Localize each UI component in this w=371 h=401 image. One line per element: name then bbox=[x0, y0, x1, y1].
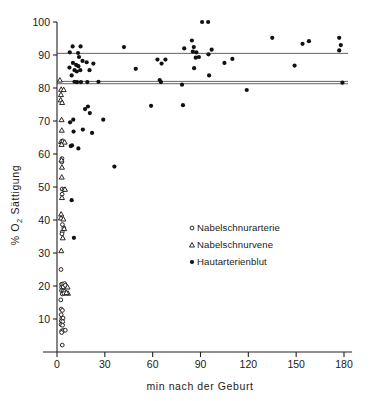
data-point bbox=[197, 55, 201, 59]
data-points-group bbox=[57, 20, 344, 347]
plot-canvas: 1020304050607080901000306090120150180 Na… bbox=[0, 0, 371, 401]
data-point bbox=[68, 50, 72, 54]
legend-marker-open-circle bbox=[190, 226, 194, 230]
data-point bbox=[337, 48, 341, 52]
data-point bbox=[134, 67, 138, 71]
data-point bbox=[194, 50, 198, 54]
x-tick-label-150: 150 bbox=[287, 358, 305, 370]
x-axis-title: min nach der Geburt bbox=[146, 380, 253, 392]
legend-marker-filled-circle bbox=[190, 260, 194, 264]
data-point bbox=[192, 45, 196, 49]
data-point bbox=[60, 343, 64, 347]
data-point bbox=[200, 20, 204, 24]
data-point bbox=[112, 164, 116, 168]
data-point bbox=[58, 92, 63, 97]
x-tick-label-0: 0 bbox=[54, 358, 60, 370]
data-point bbox=[60, 232, 64, 236]
data-point bbox=[71, 118, 75, 122]
data-point bbox=[101, 118, 105, 122]
y-tick-label-10: 10 bbox=[38, 313, 50, 325]
data-point bbox=[59, 298, 63, 302]
data-point bbox=[91, 61, 95, 65]
data-point bbox=[206, 52, 210, 56]
y-tick-label-50: 50 bbox=[38, 181, 50, 193]
data-point bbox=[210, 48, 214, 52]
data-point bbox=[182, 46, 186, 50]
data-point bbox=[59, 128, 64, 133]
legend-group: NabelschnurarterieNabelschnurveneHautart… bbox=[190, 222, 280, 267]
svg-text:% O2 Sättigung: % O2 Sättigung bbox=[9, 165, 24, 245]
reference-lines-group bbox=[57, 53, 348, 83]
data-point bbox=[337, 36, 341, 40]
y-tick-label-80: 80 bbox=[38, 82, 50, 94]
data-point bbox=[270, 36, 274, 40]
y-axis-title-rest: Sättigung bbox=[9, 165, 21, 215]
legend-marker-triangle bbox=[190, 243, 195, 248]
data-point bbox=[307, 39, 311, 43]
data-point bbox=[76, 64, 80, 68]
data-point bbox=[85, 60, 89, 64]
data-point bbox=[222, 61, 226, 65]
data-point bbox=[70, 73, 74, 77]
data-point bbox=[81, 127, 85, 131]
y-tick-label-40: 40 bbox=[38, 214, 50, 226]
data-point bbox=[340, 81, 344, 85]
data-point bbox=[59, 165, 64, 170]
data-point bbox=[77, 55, 81, 59]
data-point bbox=[191, 50, 195, 54]
data-point bbox=[86, 104, 90, 108]
data-point bbox=[72, 236, 76, 240]
data-point bbox=[60, 331, 64, 335]
legend-item-2: Hautarterienblut bbox=[190, 256, 267, 267]
x-tick-label-30: 30 bbox=[99, 358, 111, 370]
legend-label-0: Nabelschnurarterie bbox=[197, 222, 280, 233]
scatter-plot-figure: 1020304050607080901000306090120150180 Na… bbox=[0, 0, 371, 401]
legend-label-2: Hautarterienblut bbox=[197, 256, 267, 267]
data-point bbox=[230, 57, 234, 61]
data-point bbox=[163, 58, 167, 62]
y-axis-title-o: O bbox=[9, 223, 21, 232]
data-point bbox=[61, 309, 65, 313]
data-point bbox=[59, 248, 64, 253]
data-point bbox=[181, 103, 185, 107]
data-point bbox=[149, 104, 153, 108]
data-point bbox=[85, 80, 89, 84]
data-point bbox=[70, 143, 74, 147]
data-point bbox=[79, 80, 83, 84]
series-hautarterienblut bbox=[67, 20, 344, 240]
data-point bbox=[122, 45, 126, 49]
data-point bbox=[300, 42, 304, 46]
y-tick-label-100: 100 bbox=[32, 16, 50, 28]
data-point bbox=[80, 59, 84, 63]
data-point bbox=[71, 44, 75, 48]
data-point bbox=[245, 88, 249, 92]
data-point bbox=[76, 51, 80, 55]
data-point bbox=[75, 80, 79, 84]
y-tick-label-30: 30 bbox=[38, 247, 50, 259]
data-point bbox=[59, 175, 64, 180]
series-nabelschnurvene bbox=[57, 78, 70, 296]
data-point bbox=[155, 58, 159, 62]
y-tick-label-60: 60 bbox=[38, 148, 50, 160]
x-tick-label-60: 60 bbox=[147, 358, 159, 370]
data-point bbox=[88, 111, 92, 115]
x-tick-label-120: 120 bbox=[240, 358, 258, 370]
data-point bbox=[207, 73, 211, 77]
x-tick-label-180: 180 bbox=[335, 358, 353, 370]
data-point bbox=[339, 43, 343, 47]
x-tick-label-90: 90 bbox=[195, 358, 207, 370]
data-point bbox=[59, 268, 63, 272]
y-tick-label-90: 90 bbox=[38, 49, 50, 61]
data-point bbox=[292, 63, 296, 67]
y-axis-title-percent: % bbox=[9, 235, 21, 245]
y-tick-label-20: 20 bbox=[38, 280, 50, 292]
data-point bbox=[87, 68, 91, 72]
y-tick-label-70: 70 bbox=[38, 115, 50, 127]
legend-label-1: Nabelschnurvene bbox=[197, 239, 273, 250]
data-point bbox=[206, 20, 210, 24]
data-point bbox=[180, 83, 184, 87]
data-point bbox=[71, 129, 75, 133]
y-axis-title: % O2 Sättigung bbox=[9, 165, 24, 245]
data-point bbox=[159, 80, 163, 84]
data-point bbox=[70, 198, 74, 202]
